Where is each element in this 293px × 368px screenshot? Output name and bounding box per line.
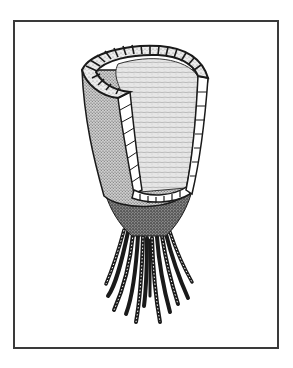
- cup-organism-illustration: [0, 0, 293, 368]
- holdfast-roots: [106, 230, 192, 322]
